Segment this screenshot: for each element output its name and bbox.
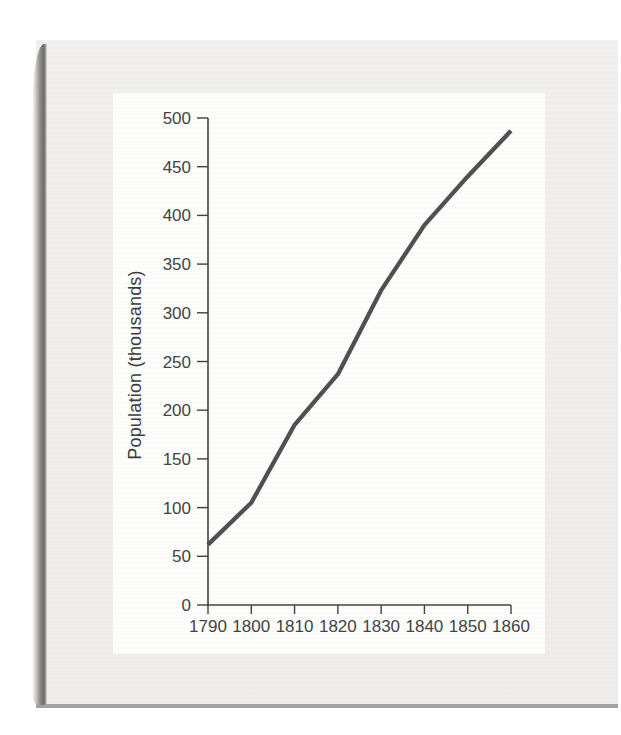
x-tick-label: 1830 [362,617,400,636]
y-tick-label: 450 [163,158,191,177]
x-tick-label: 1840 [406,617,444,636]
y-tick-label: 100 [163,499,191,518]
y-tick-label: 300 [163,304,191,323]
y-tick-label: 50 [172,547,191,566]
population-data-line [208,131,511,545]
scanned-page: Population (thousands) 05010015020025030… [0,0,621,735]
population-line-chart: 0501001502002503003504004505001790180018… [113,93,545,654]
y-tick-label: 350 [163,255,191,274]
x-tick-label: 1800 [232,617,270,636]
y-tick-label: 200 [163,401,191,420]
y-tick-label: 400 [163,206,191,225]
y-tick-label: 500 [163,109,191,128]
page-binding-edge [32,44,47,705]
y-tick-label: 250 [163,353,191,372]
chart-panel: Population (thousands) 05010015020025030… [113,93,545,654]
page-card: Population (thousands) 05010015020025030… [36,40,618,708]
x-tick-label: 1810 [276,617,314,636]
y-tick-label: 0 [182,596,191,615]
x-tick-label: 1860 [492,617,530,636]
x-tick-label: 1790 [189,617,227,636]
x-tick-label: 1820 [319,617,357,636]
x-tick-label: 1850 [449,617,487,636]
y-tick-label: 150 [163,450,191,469]
